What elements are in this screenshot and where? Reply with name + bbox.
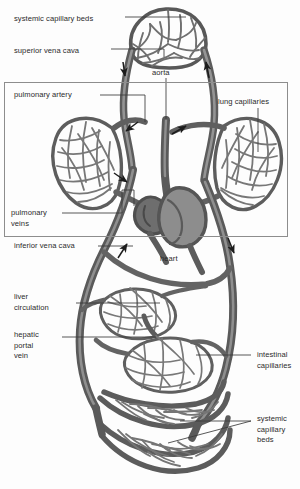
label-pulmonary-veins: pulmonary veins — [11, 208, 47, 229]
hepatic-portal-vein-vessel — [144, 316, 156, 336]
label-aorta: aorta — [152, 68, 170, 79]
label-liver-circulation: liver circulation — [14, 292, 49, 313]
figure-canvas: systemic capillary beds superior vena ca… — [0, 0, 300, 489]
label-systemic-capillary-beds-top: systemic capillary beds — [14, 14, 93, 25]
liver-capillary-network — [82, 286, 206, 339]
upper-systemic-capillary-bed — [131, 9, 206, 68]
label-superior-vena-cava: superior vena cava — [14, 46, 79, 57]
label-pulmonary-artery: pulmonary artery — [14, 90, 72, 101]
label-systemic-capillary-beds-bottom: systemic capillary beds — [257, 414, 287, 446]
label-hepatic-portal-vein: hepatic portal vein — [14, 330, 39, 362]
label-heart: heart — [160, 254, 178, 265]
label-inferior-vena-cava: inferior vena cava — [14, 241, 75, 252]
intestinal-capillary-network — [96, 336, 226, 392]
label-lung-capillaries: lung capillaries — [218, 97, 269, 108]
label-intestinal-capillaries: intestinal capillaries — [257, 350, 291, 371]
